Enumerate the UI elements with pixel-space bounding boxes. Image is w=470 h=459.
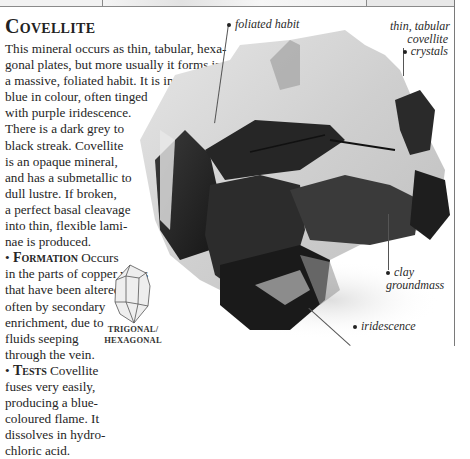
tests-heading: Tests bbox=[13, 363, 47, 378]
leader-clay bbox=[388, 214, 389, 270]
page-top-table-edge bbox=[0, 0, 455, 7]
top-cell-left bbox=[0, 0, 103, 6]
top-cell-middle bbox=[103, 0, 367, 6]
label-dot bbox=[386, 271, 390, 275]
label-iridescence: iridescence bbox=[353, 320, 416, 333]
covellite-specimen-photo-icon bbox=[128, 20, 454, 346]
tests-heading-line: • Tests Covellite bbox=[5, 363, 226, 379]
top-cell-right bbox=[367, 0, 454, 6]
bullet: • bbox=[5, 250, 10, 265]
label-dot bbox=[227, 23, 231, 27]
formation-heading: Formation bbox=[13, 250, 78, 265]
hexagonal-crystal-icon bbox=[112, 264, 152, 324]
text-line: dissolves in hydro- bbox=[5, 427, 226, 443]
label-dot bbox=[403, 50, 407, 54]
right-margin-rule bbox=[454, 0, 455, 346]
text-line: through the vein. bbox=[5, 347, 226, 363]
text-line: fuses very easily, bbox=[5, 379, 226, 395]
text-line: chloric acid. bbox=[5, 443, 226, 459]
label-clay-groundmass: clay groundmass bbox=[386, 266, 444, 291]
label-thin-tabular-crystals: thin, tabular covellite crystals bbox=[390, 20, 448, 58]
label-dot bbox=[353, 325, 357, 329]
label-foliated-habit: foliated habit bbox=[227, 18, 299, 31]
text-line: producing a blue- bbox=[5, 395, 226, 411]
crystal-system-caption: TRIGONAL/ HEXAGONAL bbox=[104, 324, 162, 346]
text-line: coloured flame. It bbox=[5, 411, 226, 427]
bullet: • bbox=[5, 363, 10, 378]
page-title: Covellite bbox=[5, 16, 95, 36]
